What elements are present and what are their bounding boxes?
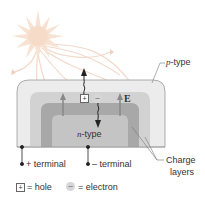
legend-electron-text: = electron (78, 183, 118, 192)
plus-terminal-label: + terminal (26, 160, 66, 169)
electron-marker: – (93, 94, 102, 103)
sun-icon (12, 10, 64, 62)
p-type-suffix: -type (171, 57, 191, 67)
charge-layers-label-line1: Charge (166, 156, 196, 165)
minus-terminal-label: – terminal (92, 160, 132, 169)
n-type-suffix: -type (82, 129, 102, 139)
legend-electron-symbol: – (66, 182, 75, 191)
p-type-label: p-type (166, 58, 191, 67)
legend-hole-text: = hole (27, 183, 52, 192)
charge-layers-label-line2: layers (170, 168, 194, 177)
n-type-label: n-type (77, 130, 102, 139)
hole-marker: + (80, 94, 89, 103)
field-label: E (124, 94, 131, 104)
legend-hole-symbol: + (16, 183, 25, 192)
